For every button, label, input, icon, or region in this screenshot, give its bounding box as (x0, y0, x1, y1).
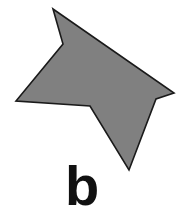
figure-label: b (62, 158, 102, 214)
irregular-polygon-figure (0, 0, 177, 175)
polygon-shape (16, 9, 174, 170)
